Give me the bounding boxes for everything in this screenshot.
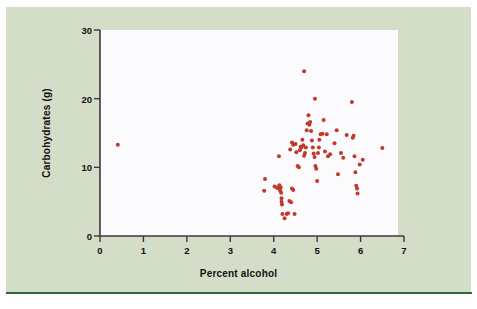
data-point xyxy=(116,143,120,147)
data-point xyxy=(300,138,304,142)
data-point xyxy=(283,216,287,220)
data-point xyxy=(316,151,320,155)
data-point xyxy=(313,97,317,101)
data-point xyxy=(293,212,297,216)
data-point xyxy=(335,128,339,132)
data-point xyxy=(308,120,312,124)
data-point xyxy=(303,151,307,155)
figure-page: 01234567 0102030 Percent alcohol Carbohy… xyxy=(0,0,477,309)
data-point xyxy=(311,145,315,149)
x-tick-label: 5 xyxy=(314,245,319,256)
x-tick-label: 4 xyxy=(271,245,276,256)
data-point xyxy=(317,145,321,149)
data-point xyxy=(263,177,267,181)
data-point xyxy=(350,100,354,104)
data-point xyxy=(293,142,297,146)
x-tick-label: 3 xyxy=(228,245,233,256)
data-point xyxy=(279,185,283,189)
data-point xyxy=(280,196,284,200)
data-point xyxy=(306,113,310,117)
data-point xyxy=(312,152,316,156)
y-axis-title: Carbohydrates (g) xyxy=(41,88,52,178)
data-point xyxy=(325,132,329,136)
data-point xyxy=(361,158,365,162)
data-point xyxy=(345,133,349,137)
data-point xyxy=(315,179,319,183)
data-point xyxy=(289,200,293,204)
data-point xyxy=(322,118,326,122)
data-point xyxy=(352,154,356,158)
data-point xyxy=(320,132,324,136)
data-point xyxy=(317,138,321,142)
y-tick-label: 0 xyxy=(72,231,92,242)
data-point xyxy=(358,163,362,167)
data-point xyxy=(323,150,327,154)
data-point xyxy=(297,165,301,169)
data-point xyxy=(339,151,343,155)
data-point xyxy=(314,167,318,171)
axes-svg xyxy=(0,0,477,309)
data-point xyxy=(286,211,290,215)
data-point xyxy=(279,191,283,195)
data-point xyxy=(310,139,314,143)
x-tick-label: 7 xyxy=(401,245,406,256)
x-tick-label: 2 xyxy=(184,245,189,256)
x-tick-label: 1 xyxy=(141,245,146,256)
data-point xyxy=(302,69,306,73)
data-point xyxy=(280,212,284,216)
data-point xyxy=(333,141,337,145)
axis-lines xyxy=(100,30,404,236)
data-point xyxy=(313,155,317,159)
data-point xyxy=(304,145,308,149)
data-point xyxy=(356,191,360,195)
data-point xyxy=(305,128,309,132)
data-point xyxy=(336,172,340,176)
data-point xyxy=(380,146,384,150)
data-point xyxy=(277,154,281,158)
data-point xyxy=(341,156,345,160)
y-tick-label: 10 xyxy=(72,162,92,173)
data-point xyxy=(355,187,359,191)
data-point xyxy=(291,188,295,192)
data-point xyxy=(309,129,313,133)
x-axis-title: Percent alcohol xyxy=(0,268,477,279)
y-tick-label: 20 xyxy=(72,93,92,104)
data-point xyxy=(328,152,332,156)
data-point xyxy=(352,134,356,138)
data-point xyxy=(262,189,266,193)
data-point xyxy=(280,202,284,206)
tick-marks xyxy=(94,30,404,242)
x-tick-label: 6 xyxy=(358,245,363,256)
data-point xyxy=(288,147,292,151)
x-tick-label: 0 xyxy=(97,245,102,256)
data-point xyxy=(353,170,357,174)
y-tick-label: 30 xyxy=(72,25,92,36)
data-points-layer xyxy=(116,69,384,220)
data-point xyxy=(294,150,298,154)
